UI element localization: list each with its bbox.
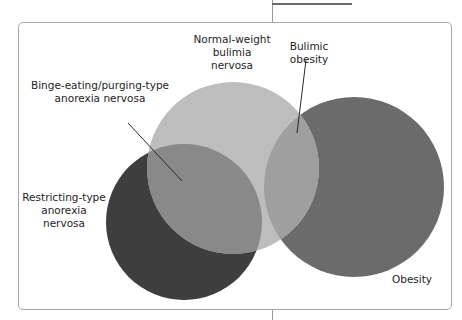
- label-obesity: Obesity: [392, 273, 432, 286]
- label-restricting-anorexia: Restricting-type anorexia nervosa: [22, 191, 105, 230]
- label-normal-weight-bulimia: Normal-weight bulimia nervosa: [193, 33, 270, 72]
- label-binge-eating-anorexia: Binge-eating/purging-type anorexia nervo…: [31, 79, 169, 105]
- label-bulimic-obesity: Bulimic obesity: [290, 40, 329, 66]
